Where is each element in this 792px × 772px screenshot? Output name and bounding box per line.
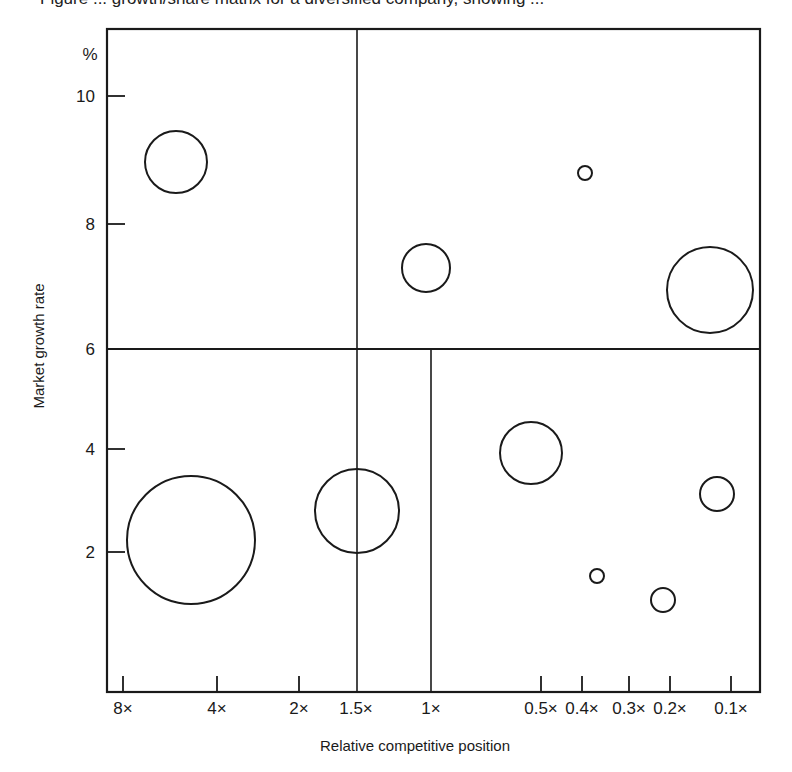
x-tick-label: 0.4× [565, 699, 599, 718]
bubble [402, 244, 450, 292]
y-axis-ticks: 108642 [76, 87, 125, 562]
y-axis-title: Market growth rate [30, 283, 47, 408]
x-tick-label: 0.2× [653, 699, 687, 718]
x-tick-label: 4× [207, 699, 226, 718]
bubble-chart: 108642 8×4×2×1.5×1×0.5×0.4×0.3×0.2×0.1× … [0, 0, 792, 772]
plot-border [107, 29, 760, 692]
bubble [700, 477, 734, 511]
bubble [127, 476, 255, 604]
x-tick-label: 0.3× [612, 699, 646, 718]
bubble [651, 588, 675, 612]
quadrant-dividers [107, 29, 760, 692]
bubble [500, 422, 562, 484]
y-tick-label: 10 [76, 87, 95, 106]
y-tick-label: 6 [86, 340, 95, 359]
y-unit-label: % [82, 45, 97, 64]
x-tick-label: 1.5× [339, 699, 373, 718]
x-tick-label: 0.5× [524, 699, 558, 718]
x-tick-label: 1× [421, 699, 440, 718]
x-tick-label: 2× [289, 699, 308, 718]
bubble [578, 166, 592, 180]
y-tick-label: 8 [86, 215, 95, 234]
bubble [667, 247, 753, 333]
bubbles [127, 131, 753, 612]
x-tick-label: 8× [113, 699, 132, 718]
x-tick-label: 0.1× [714, 699, 748, 718]
bubble [145, 131, 207, 193]
y-tick-label: 4 [86, 440, 95, 459]
y-tick-label: 2 [86, 543, 95, 562]
bubble [590, 569, 604, 583]
x-axis-title: Relative competitive position [320, 737, 510, 754]
plot-frame [107, 29, 760, 692]
